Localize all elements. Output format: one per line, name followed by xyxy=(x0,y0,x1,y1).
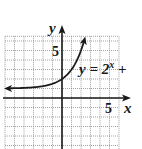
equation-label: y = 2x + xyxy=(77,59,127,77)
curve-y-equals-2-to-x-plus-1 xyxy=(9,42,84,89)
equation-tail: + xyxy=(114,61,126,77)
x-axis-label: x xyxy=(123,100,132,116)
y-axis-label: y xyxy=(47,20,56,36)
y-tick-label-5: 5 xyxy=(52,44,59,59)
exponential-function-graph: y 5 5 x y = 2x + xyxy=(0,0,142,149)
equation-main: y = 2 xyxy=(77,61,110,77)
x-tick-label-5: 5 xyxy=(105,101,112,116)
